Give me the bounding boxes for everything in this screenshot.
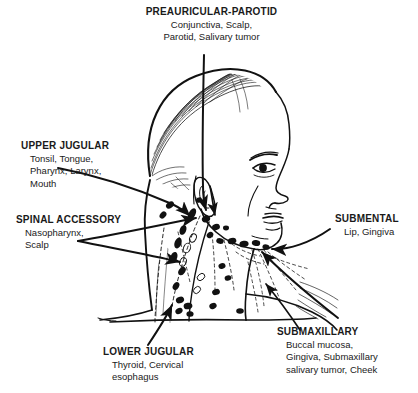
label-lower-jugular: LOWER JUGULAR Thyroid, Cervical esophagu… [103, 346, 194, 384]
label-submental: SUBMENTAL Lip, Gingiva [335, 213, 399, 238]
label-submaxillary-heading: SUBMAXILLARY [277, 326, 378, 339]
arrow-submaxillary [262, 252, 338, 318]
label-submaxillary-line1: Buccal mucosa, [277, 339, 378, 352]
label-preauricular-parotid-heading: PREAURICULAR-PAROTID [119, 6, 304, 19]
label-preauricular-parotid-line1: Conjunctiva, Scalp, [119, 19, 304, 32]
label-lower-jugular-line1: Thyroid, Cervical [103, 359, 194, 372]
anatomical-figure: PREAURICULAR-PAROTID Conjunctiva, Scalp,… [0, 0, 418, 393]
label-upper-jugular: UPPER JUGULAR Tonsil, Tongue, Pharynx, L… [21, 140, 109, 190]
label-submental-heading: SUBMENTAL [335, 213, 399, 226]
arrow-submaxillary-branch [266, 284, 300, 330]
label-submaxillary-line3: salivary tumor, Cheek [277, 364, 378, 377]
label-lower-jugular-line2: esophagus [103, 371, 194, 384]
label-preauricular-parotid-line2: Parotid, Salivary tumor [119, 31, 304, 44]
arrow-preauricular-parotid [203, 55, 206, 210]
label-upper-jugular-line1: Tonsil, Tongue, [21, 153, 109, 166]
label-spinal-accessory-line1: Nasopharynx, [16, 227, 121, 240]
label-submental-line1: Lip, Gingiva [335, 226, 399, 239]
label-preauricular-parotid: PREAURICULAR-PAROTID Conjunctiva, Scalp,… [119, 6, 304, 44]
label-submaxillary-line2: Gingiva, Submaxillary [277, 351, 378, 364]
label-spinal-accessory: SPINAL ACCESSORY Nasopharynx, Scalp [16, 214, 121, 252]
label-submaxillary: SUBMAXILLARY Buccal mucosa, Gingiva, Sub… [277, 326, 378, 376]
label-spinal-accessory-heading: SPINAL ACCESSORY [16, 214, 121, 227]
label-lower-jugular-heading: LOWER JUGULAR [103, 346, 194, 359]
label-upper-jugular-line2: Pharynx, Larynx, [21, 165, 109, 178]
deep-node-group [178, 233, 206, 295]
label-upper-jugular-line3: Mouth [21, 178, 109, 191]
label-upper-jugular-heading: UPPER JUGULAR [21, 140, 109, 153]
label-spinal-accessory-line2: Scalp [16, 239, 121, 252]
